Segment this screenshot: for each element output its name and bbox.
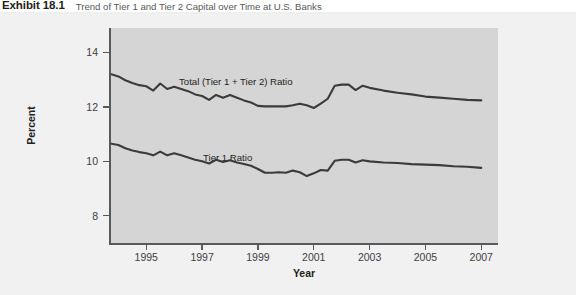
chart-figure: 8101214 1995199719992001200320052007 Per…	[0, 14, 576, 295]
exhibit-header: Exhibit 18.1 Trend of Tier 1 and Tier 2 …	[0, 0, 576, 12]
line-tier1-ratio	[111, 144, 481, 176]
exhibit-title: Trend of Tier 1 and Tier 2 Capital over …	[76, 0, 322, 12]
chart-lines	[0, 14, 576, 295]
line-total-ratio	[111, 74, 481, 108]
exhibit-number: Exhibit 18.1	[2, 0, 65, 11]
